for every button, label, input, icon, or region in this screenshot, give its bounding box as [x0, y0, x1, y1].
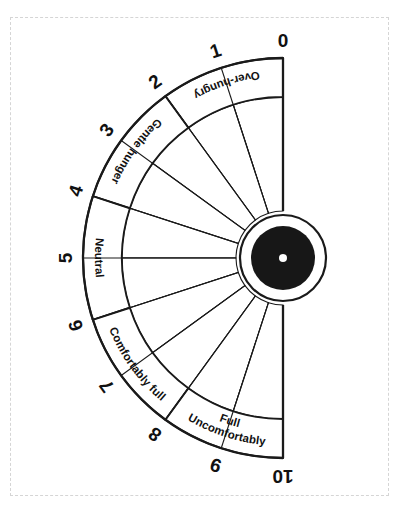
tick-number-5: 5 — [55, 252, 76, 263]
band-label-neutral: Neutral — [93, 238, 106, 279]
tick-number-0: 0 — [278, 30, 289, 51]
tick-number-2: 2 — [144, 70, 165, 93]
tick-number-7: 7 — [95, 376, 118, 397]
tick-number-8: 8 — [144, 423, 165, 446]
tick-number-10: 10 — [272, 466, 293, 487]
hub-pivot-dot-icon — [279, 254, 287, 262]
hunger-fullness-dial: Over-hungryGentle hungerNeutralComfortab… — [0, 0, 411, 519]
dial-center-hub[interactable] — [240, 215, 326, 301]
tick-number-9: 9 — [207, 454, 224, 477]
tick-number-1: 1 — [207, 39, 224, 62]
tick-number-6: 6 — [64, 317, 87, 334]
dial-svg: Over-hungryGentle hungerNeutralComfortab… — [0, 0, 411, 519]
tick-number-4: 4 — [64, 182, 87, 199]
page-root: Over-hungryGentle hungerNeutralComfortab… — [0, 0, 411, 519]
tick-number-3: 3 — [95, 119, 118, 140]
